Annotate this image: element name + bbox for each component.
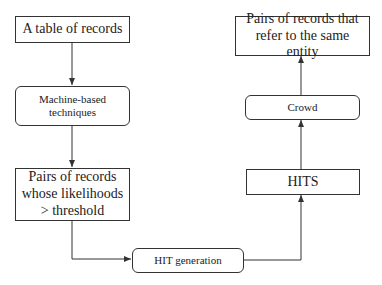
node-same-entity-pairs: Pairs of records that refer to the same …: [235, 16, 370, 56]
node-label: HITS: [287, 174, 318, 191]
node-label: Crowd: [288, 101, 318, 114]
node-hit-generation: HIT generation: [132, 248, 244, 273]
node-label: A table of records: [23, 21, 123, 38]
arrow-hitgen-to-hits: [243, 195, 301, 260]
node-hits: HITS: [246, 169, 360, 195]
node-pairs-above-threshold: Pairs of records whose likelihoods > thr…: [15, 168, 130, 221]
node-crowd: Crowd: [245, 95, 360, 120]
node-label: Pairs of records that refer to the same …: [239, 11, 366, 61]
node-table-of-records: A table of records: [15, 16, 130, 43]
node-label: HIT generation: [154, 254, 221, 267]
node-label: Pairs of records whose likelihoods > thr…: [20, 169, 125, 219]
node-machine-based-techniques: Machine-based techniques: [15, 86, 130, 126]
node-label: Machine-based techniques: [34, 93, 111, 119]
arrow-pairs-to-hitgen: [72, 220, 131, 259]
